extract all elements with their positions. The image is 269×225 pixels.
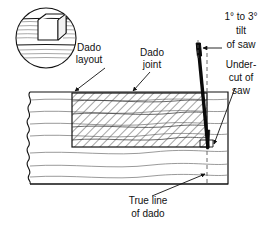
- hatched-dado-cut-region: [72, 93, 207, 147]
- label-true-line-line2: of dado: [131, 208, 165, 219]
- dado-joint-figure: Dado layout Dado joint 1° to 3° tilt of …: [0, 0, 269, 225]
- label-dado-layout-line1: Dado: [77, 42, 101, 53]
- leader-dado-layout: [75, 68, 105, 91]
- label-dado-joint-line2: joint: [142, 59, 162, 70]
- label-undercut-line3: saw: [232, 85, 251, 96]
- dado-groove-detail-inset: [16, 8, 76, 68]
- label-tilt-line3: of saw: [227, 39, 257, 50]
- leader-dado-joint: [133, 72, 150, 91]
- label-undercut-line2: cut of: [229, 72, 254, 83]
- wood-board-section: [27, 92, 228, 184]
- label-undercut-line1: Under-: [226, 59, 257, 70]
- label-dado-joint-line1: Dado: [140, 47, 164, 58]
- label-dado-layout-line2: layout: [76, 54, 103, 65]
- figure-canvas: Dado layout Dado joint 1° to 3° tilt of …: [0, 0, 269, 225]
- label-true-line-line1: True line: [129, 195, 168, 206]
- label-tilt-line1: 1° to 3°: [224, 11, 257, 22]
- label-tilt-line2: tilt: [236, 25, 246, 36]
